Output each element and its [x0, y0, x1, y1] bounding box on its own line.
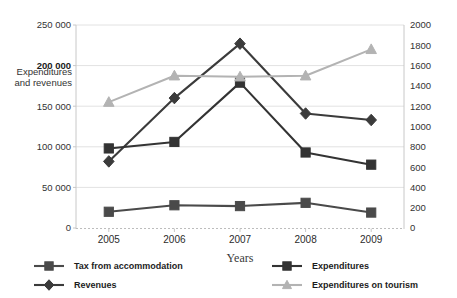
x-axis-category-label: 2006 [163, 234, 186, 245]
legend-diamond-marker [44, 280, 54, 291]
data-point-square-marker [301, 198, 310, 207]
data-point-diamond-marker [366, 114, 377, 126]
legend-square-marker [45, 262, 53, 270]
x-axis-category-label: 2007 [229, 234, 252, 245]
data-point-square-marker [367, 160, 376, 169]
right-axis-tick-label: 1000 [410, 121, 431, 132]
legend-item[interactable]: Revenues [34, 280, 117, 291]
data-series-layer [104, 38, 377, 217]
series-tax-from-accommodation [104, 198, 376, 217]
series-expenditures-on-tourism [104, 44, 377, 106]
right-axis-tick-label: 800 [410, 141, 426, 152]
left-axis-tick-label: 50 000 [42, 182, 71, 193]
x-axis-category-label: 2008 [294, 234, 317, 245]
right-axis-tick-label: 200 [410, 202, 426, 213]
y-axis-title-line1: Expenditures [17, 66, 73, 77]
data-point-square-marker [301, 148, 310, 157]
data-point-square-marker [104, 207, 113, 216]
line-chart: 050 000100 000150 000200 000250 000 0200… [0, 0, 457, 298]
x-axis-category-label: 2005 [98, 234, 121, 245]
legend-label: Expenditures [312, 261, 369, 271]
x-axis-category-label: 2009 [360, 234, 383, 245]
legend-label: Expenditures on tourism [312, 280, 418, 290]
legend-square-marker [283, 262, 291, 270]
right-axis-tick-label: 2000 [410, 19, 431, 30]
right-axis-tick-labels: 0200400600800100012001400160018002000 [410, 19, 431, 233]
data-point-triangle-marker [366, 44, 377, 54]
right-axis-tick-label: 1400 [410, 80, 431, 91]
data-point-square-marker [367, 208, 376, 217]
legend-label: Tax from accommodation [74, 261, 183, 271]
x-axis-title: Years [227, 251, 254, 265]
y-axis-title-line2: and revenues [14, 77, 72, 88]
legend-item[interactable]: Tax from accommodation [34, 261, 183, 271]
left-axis-tick-label: 0 [66, 222, 71, 233]
right-axis-tick-label: 400 [410, 182, 426, 193]
data-point-square-marker [104, 144, 113, 153]
chart-legend: Tax from accommodationRevenuesExpenditur… [34, 261, 418, 290]
chart-canvas: 050 000100 000150 000200 000250 000 0200… [0, 0, 457, 298]
right-axis-tick-label: 1200 [410, 101, 431, 112]
series-revenues [104, 38, 377, 167]
legend-item[interactable]: Expenditures on tourism [272, 280, 418, 290]
right-axis-tick-label: 1600 [410, 60, 431, 71]
right-axis-tick-label: 1800 [410, 40, 431, 51]
x-axis-category-labels: 20052006200720082009 [98, 229, 383, 246]
data-point-square-marker [170, 201, 179, 210]
left-axis-tick-label: 150 000 [37, 101, 71, 112]
left-axis-tick-label: 100 000 [37, 141, 71, 152]
data-point-square-marker [235, 201, 244, 210]
legend-item[interactable]: Expenditures [272, 261, 369, 271]
data-point-square-marker [170, 137, 179, 146]
right-axis-tick-label: 0 [410, 222, 415, 233]
right-axis-tick-label: 600 [410, 162, 426, 173]
left-axis-tick-labels: 050 000100 000150 000200 000250 000 [37, 19, 76, 233]
series-expenditures [104, 78, 376, 169]
left-axis-tick-label: 250 000 [37, 19, 71, 30]
legend-label: Revenues [74, 280, 117, 290]
